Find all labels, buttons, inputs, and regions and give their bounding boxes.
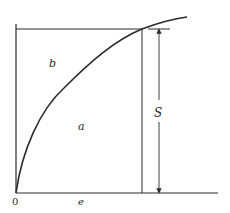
diagram-canvas: b a S 0 e: [0, 0, 230, 213]
origin-label: 0: [12, 196, 18, 207]
x-axis-label-e: e: [78, 196, 84, 207]
stress-strain-curve: [16, 17, 187, 193]
dimension-label-s: S: [154, 106, 162, 120]
region-label-a: a: [78, 120, 85, 133]
region-label-b: b: [49, 57, 56, 70]
